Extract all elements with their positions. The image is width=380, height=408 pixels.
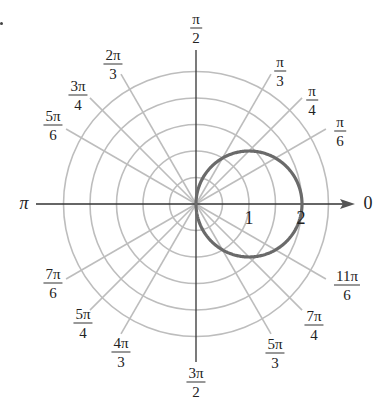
fraction-denominator: 6 bbox=[334, 286, 360, 303]
angle-label-60deg: π3 bbox=[274, 54, 286, 89]
angle-spoke bbox=[66, 204, 196, 279]
fraction-denominator: 6 bbox=[334, 132, 346, 149]
polar-plot bbox=[0, 0, 380, 408]
fraction-numerator: 4π bbox=[111, 335, 130, 353]
fraction-denominator: 6 bbox=[43, 126, 62, 143]
fraction-denominator: 4 bbox=[306, 101, 318, 118]
fraction-numerator: 11π bbox=[334, 268, 360, 286]
angle-label-315deg: 7π4 bbox=[304, 308, 323, 343]
angle-label-240deg: 4π3 bbox=[111, 335, 130, 370]
fraction-denominator: 2 bbox=[186, 383, 205, 400]
fraction-numerator: π bbox=[274, 54, 286, 72]
fraction-numerator: π bbox=[190, 11, 202, 29]
angle-spoke bbox=[121, 74, 196, 204]
angle-label-120deg: 2π3 bbox=[103, 47, 122, 82]
angle-label-135deg: 3π4 bbox=[68, 78, 87, 113]
fraction-denominator: 4 bbox=[68, 96, 87, 113]
angle-label-45deg: π4 bbox=[306, 83, 318, 118]
fraction-numerator: 3π bbox=[68, 78, 87, 96]
fraction-numerator: 5π bbox=[43, 108, 62, 126]
radial-tick-label-1: 1 bbox=[245, 208, 254, 229]
angle-label-0deg: 0 bbox=[364, 193, 373, 214]
angle-spoke bbox=[196, 74, 271, 204]
fraction-numerator: 3π bbox=[186, 365, 205, 383]
angle-label-30deg: π6 bbox=[334, 114, 346, 149]
angle-spoke bbox=[90, 98, 196, 204]
fraction-numerator: 2π bbox=[103, 47, 122, 65]
angle-label-300deg: 5π3 bbox=[265, 336, 284, 371]
fraction-denominator: 3 bbox=[274, 72, 286, 89]
fraction-denominator: 3 bbox=[265, 354, 284, 371]
angle-label-150deg: 5π6 bbox=[43, 108, 62, 143]
fraction-numerator: 5π bbox=[265, 336, 284, 354]
fraction-numerator: π bbox=[334, 114, 346, 132]
fraction-denominator: 4 bbox=[304, 326, 323, 343]
angle-spoke bbox=[196, 204, 326, 279]
angle-label-330deg: 11π6 bbox=[334, 268, 360, 303]
fraction-denominator: 4 bbox=[73, 324, 92, 341]
angle-spoke bbox=[66, 129, 196, 204]
fraction-denominator: 2 bbox=[190, 29, 202, 46]
fraction-numerator: 5π bbox=[73, 306, 92, 324]
fraction-numerator: 7π bbox=[304, 308, 323, 326]
stray-dot-mark bbox=[0, 22, 3, 25]
radial-tick-label-2: 2 bbox=[297, 208, 306, 229]
fraction-numerator: 7π bbox=[43, 266, 62, 284]
angle-spoke bbox=[121, 204, 196, 334]
fraction-denominator: 3 bbox=[103, 65, 122, 82]
angle-label-180deg: π bbox=[19, 193, 28, 214]
angle-label-270deg: 3π2 bbox=[186, 365, 205, 400]
angle-spoke bbox=[90, 204, 196, 310]
fraction-denominator: 6 bbox=[43, 284, 62, 301]
angle-label-225deg: 5π4 bbox=[73, 306, 92, 341]
angle-label-210deg: 7π6 bbox=[43, 266, 62, 301]
fraction-denominator: 3 bbox=[111, 353, 130, 370]
angle-spoke bbox=[196, 204, 271, 334]
fraction-numerator: π bbox=[306, 83, 318, 101]
angle-label-90deg: π2 bbox=[190, 11, 202, 46]
angle-spoke bbox=[196, 129, 326, 204]
